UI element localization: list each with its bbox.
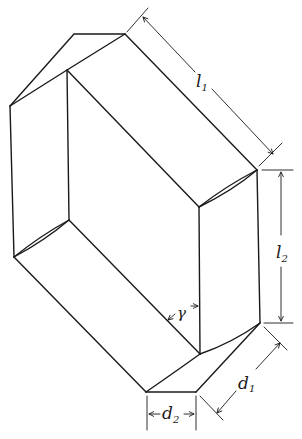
l1-extension-top: [127, 8, 148, 32]
l1-extension-bottom: [259, 143, 282, 166]
right-facet-top-a: [199, 170, 257, 207]
right-outer-vertical: [257, 170, 260, 323]
l1-arrow-top: [143, 17, 195, 72]
l2-label: l2: [276, 242, 288, 264]
crystal-outline: [10, 34, 260, 392]
top-long-edge: [125, 34, 257, 170]
right-facet-top-b: [199, 170, 257, 207]
gamma-label: γ: [177, 304, 186, 322]
right-inner-vertical: [199, 207, 200, 354]
left-facet-a: [14, 220, 69, 257]
bottom-right-edge: [196, 323, 260, 392]
gamma-arrow-left: [168, 314, 175, 320]
bottom-long-edge: [14, 257, 146, 392]
d1-label: d1: [238, 373, 255, 394]
l1-arrow-bottom: [212, 89, 273, 154]
left-inner-vertical: [67, 70, 69, 220]
d1-extension-bottom: [200, 396, 223, 420]
dimension-d2: d2: [147, 396, 196, 430]
dimension-l2: l2: [262, 170, 293, 323]
angle-gamma: γ: [168, 304, 198, 322]
bottom-cap-upper: [200, 323, 260, 354]
dimension-l1: l1: [127, 8, 282, 166]
d1-arrow-top: [256, 343, 280, 369]
d1-extension-top: [264, 327, 287, 350]
left-facet-b: [14, 220, 69, 257]
left-outer-vertical: [10, 106, 14, 257]
crystal-diagram: l1 l2 γ d1 d2: [0, 0, 302, 439]
d2-label: d2: [162, 403, 179, 425]
d1-arrow-bottom: [217, 391, 236, 413]
bottom-cap-inner: [146, 354, 200, 392]
l1-label: l1: [196, 71, 208, 93]
